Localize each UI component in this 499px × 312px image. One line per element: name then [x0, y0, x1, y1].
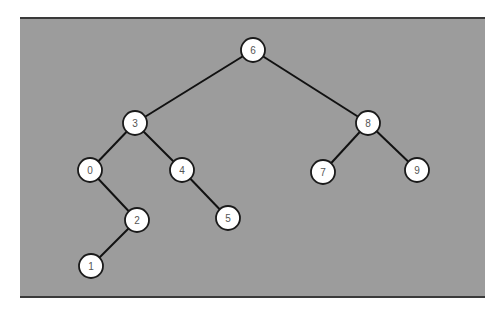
node-label: 8: [365, 118, 371, 129]
edges: [90, 50, 417, 266]
node-label: 5: [225, 213, 231, 224]
node-label: 0: [87, 165, 93, 176]
tree-node-0: 0: [78, 158, 102, 182]
tree-node-5: 5: [216, 206, 240, 230]
tree-node-4: 4: [170, 158, 194, 182]
node-label: 1: [88, 261, 94, 272]
edge-6-3: [135, 50, 253, 123]
tree-node-1: 1: [79, 254, 103, 278]
node-label: 9: [414, 165, 420, 176]
tree-node-7: 7: [311, 160, 335, 184]
node-label: 4: [179, 165, 185, 176]
node-label: 2: [134, 215, 140, 226]
tree-node-2: 2: [125, 208, 149, 232]
node-label: 7: [320, 167, 326, 178]
tree-node-8: 8: [356, 111, 380, 135]
edge-6-8: [253, 50, 368, 123]
tree-node-3: 3: [123, 111, 147, 135]
tree-node-6: 6: [241, 38, 265, 62]
node-label: 3: [132, 118, 138, 129]
tree-diagram: 6380479251: [0, 0, 499, 312]
tree-node-9: 9: [405, 158, 429, 182]
node-label: 6: [250, 45, 256, 56]
nodes: 6380479251: [78, 38, 429, 278]
